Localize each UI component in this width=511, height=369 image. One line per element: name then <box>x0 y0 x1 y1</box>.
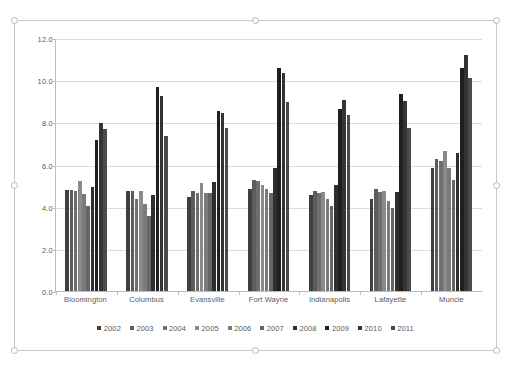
bar-2004-bloomington[interactable] <box>74 191 78 291</box>
bar-2009-evansville[interactable] <box>217 111 221 291</box>
y-axis-tick-label: 8.0 <box>42 119 53 128</box>
bar-2006-fort-wayne[interactable] <box>265 189 269 291</box>
bar-2011-muncie[interactable] <box>468 78 472 291</box>
legend-item-2010[interactable]: 2010 <box>358 324 382 333</box>
legend-item-2008[interactable]: 2008 <box>293 324 317 333</box>
bar-2009-lafayette[interactable] <box>399 94 403 291</box>
category-label-indianapolis: Indianapolis <box>299 295 360 309</box>
bar-2007-bloomington[interactable] <box>86 206 90 291</box>
bar-2006-columbus[interactable] <box>143 204 147 291</box>
bar-2009-fort-wayne[interactable] <box>277 68 281 291</box>
bar-2010-columbus[interactable] <box>160 96 164 291</box>
bar-2007-muncie[interactable] <box>452 180 456 291</box>
bar-2011-columbus[interactable] <box>164 136 168 291</box>
category-label-muncie: Muncie <box>421 295 482 309</box>
legend-label: 2004 <box>169 324 186 333</box>
bar-2002-muncie[interactable] <box>431 168 435 291</box>
bar-2009-columbus[interactable] <box>156 87 160 292</box>
bar-2006-lafayette[interactable] <box>387 201 391 291</box>
bar-2010-fort-wayne[interactable] <box>282 73 286 291</box>
bar-2006-bloomington[interactable] <box>82 194 86 291</box>
bar-2008-columbus[interactable] <box>151 195 155 291</box>
y-axis-tick-label: 4.0 <box>42 203 53 212</box>
bar-2002-fort-wayne[interactable] <box>248 189 252 291</box>
bar-2010-bloomington[interactable] <box>99 123 103 291</box>
bar-2007-indianapolis[interactable] <box>330 206 334 291</box>
legend-item-2005[interactable]: 2005 <box>195 324 219 333</box>
bar-2011-bloomington[interactable] <box>103 129 107 291</box>
legend-item-2004[interactable]: 2004 <box>163 324 187 333</box>
resize-handle-middle-right[interactable] <box>493 182 500 189</box>
bar-2005-columbus[interactable] <box>139 191 143 291</box>
legend-item-2003[interactable]: 2003 <box>130 324 154 333</box>
bar-2007-evansville[interactable] <box>208 193 212 291</box>
bar-clusters <box>56 39 482 291</box>
bar-2009-indianapolis[interactable] <box>338 109 342 291</box>
bar-2004-muncie[interactable] <box>439 161 443 291</box>
bar-2004-indianapolis[interactable] <box>317 193 321 291</box>
resize-handle-bottom-left[interactable] <box>11 347 18 354</box>
bar-2004-fort-wayne[interactable] <box>256 181 260 291</box>
bar-2011-indianapolis[interactable] <box>347 115 351 291</box>
bar-2005-evansville[interactable] <box>200 183 204 291</box>
bar-2010-muncie[interactable] <box>464 55 468 291</box>
chart-object[interactable]: 0.02.04.06.08.010.012.0 BloomingtonColum… <box>14 20 497 351</box>
legend-item-2006[interactable]: 2006 <box>228 324 252 333</box>
bar-2007-fort-wayne[interactable] <box>269 193 273 291</box>
bar-2005-bloomington[interactable] <box>78 181 82 291</box>
bar-2002-lafayette[interactable] <box>370 199 374 291</box>
bar-2010-evansville[interactable] <box>221 113 225 291</box>
bar-2002-columbus[interactable] <box>126 191 130 291</box>
bar-2007-lafayette[interactable] <box>391 208 395 291</box>
legend-swatch-icon <box>358 326 362 330</box>
bar-2005-muncie[interactable] <box>443 151 447 291</box>
legend-swatch-icon <box>195 326 199 330</box>
bar-2007-columbus[interactable] <box>147 216 151 291</box>
bar-2003-lafayette[interactable] <box>374 189 378 291</box>
resize-handle-middle-left[interactable] <box>11 182 18 189</box>
resize-handle-top-center[interactable] <box>252 17 259 24</box>
bar-2008-indianapolis[interactable] <box>334 185 338 291</box>
bar-2004-lafayette[interactable] <box>378 192 382 291</box>
resize-handle-top-right[interactable] <box>493 17 500 24</box>
bar-2011-fort-wayne[interactable] <box>286 102 290 291</box>
bar-2006-indianapolis[interactable] <box>326 199 330 291</box>
resize-handle-top-left[interactable] <box>11 17 18 24</box>
resize-handle-bottom-center[interactable] <box>252 347 259 354</box>
legend-item-2009[interactable]: 2009 <box>325 324 349 333</box>
bar-2005-lafayette[interactable] <box>382 191 386 291</box>
cluster-bars <box>248 39 290 291</box>
bar-2009-bloomington[interactable] <box>95 140 99 291</box>
bar-2003-muncie[interactable] <box>435 159 439 291</box>
bar-2003-columbus[interactable] <box>131 191 135 291</box>
legend-item-2011[interactable]: 2011 <box>391 324 414 333</box>
bar-cluster <box>421 39 482 291</box>
legend-item-2002[interactable]: 2002 <box>97 324 121 333</box>
bar-2004-columbus[interactable] <box>135 199 139 291</box>
bar-2004-evansville[interactable] <box>196 193 200 291</box>
bar-2006-muncie[interactable] <box>447 168 451 291</box>
bar-2010-indianapolis[interactable] <box>342 100 346 291</box>
bar-2011-evansville[interactable] <box>225 128 229 291</box>
legend-item-2007[interactable]: 2007 <box>260 324 284 333</box>
resize-handle-bottom-right[interactable] <box>493 347 500 354</box>
bar-2005-indianapolis[interactable] <box>321 192 325 291</box>
bar-2002-evansville[interactable] <box>187 197 191 291</box>
bar-2005-fort-wayne[interactable] <box>261 185 265 291</box>
bar-2002-bloomington[interactable] <box>65 190 69 291</box>
chart-legend[interactable]: 2002200320042005200620072008200920102011 <box>15 321 496 335</box>
bar-2008-muncie[interactable] <box>456 153 460 291</box>
bar-2008-fort-wayne[interactable] <box>273 168 277 291</box>
bar-2003-indianapolis[interactable] <box>313 191 317 291</box>
bar-2008-bloomington[interactable] <box>91 187 95 291</box>
bar-2009-muncie[interactable] <box>460 68 464 291</box>
bar-2006-evansville[interactable] <box>204 193 208 291</box>
bar-2010-lafayette[interactable] <box>403 101 407 291</box>
bar-2008-evansville[interactable] <box>212 182 216 291</box>
bar-2011-lafayette[interactable] <box>407 128 411 291</box>
bar-2002-indianapolis[interactable] <box>309 195 313 291</box>
bar-2003-evansville[interactable] <box>191 191 195 291</box>
bar-2003-bloomington[interactable] <box>70 190 74 291</box>
bar-2008-lafayette[interactable] <box>395 192 399 291</box>
bar-2003-fort-wayne[interactable] <box>252 180 256 291</box>
